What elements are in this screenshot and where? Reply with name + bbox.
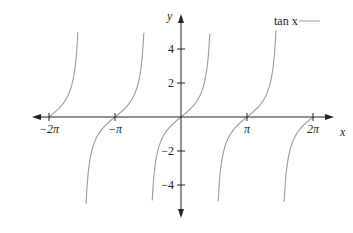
x-tick-label: 2π [307, 122, 320, 136]
y-arrow-up-icon [178, 14, 184, 23]
x-axis-label: x [339, 125, 346, 139]
x-arrow-right-icon [325, 114, 334, 120]
tan-branch [49, 32, 78, 117]
x-tick-label: π [244, 122, 251, 136]
x-tick-label: −π [108, 122, 123, 136]
y-tick-label: −2 [161, 144, 174, 158]
y-axis-label: y [166, 9, 173, 23]
tan-chart: −2π−ππ2π42−2−4 x y tan x [0, 0, 353, 233]
y-tick-label: 4 [168, 42, 174, 56]
y-tick-label: 2 [168, 76, 174, 90]
x-tick-label: −2π [39, 122, 60, 136]
legend-label: tan x [274, 14, 298, 28]
legend: tan x [274, 14, 320, 28]
y-arrow-down-icon [178, 209, 184, 218]
y-tick-label: −4 [161, 178, 174, 192]
x-arrow-left-icon [32, 114, 41, 120]
